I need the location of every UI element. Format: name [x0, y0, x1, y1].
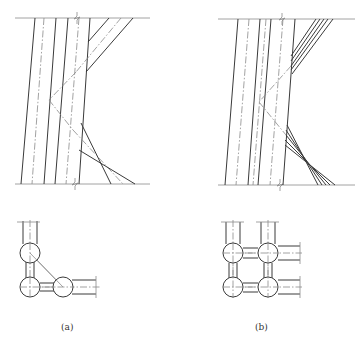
panel-a-plan [17, 220, 100, 298]
caption-a: (a) [61, 322, 73, 332]
panel-b-plan [221, 220, 302, 298]
panel-b-elevation [218, 13, 355, 191]
panel-a-elevation [15, 12, 150, 190]
caption-b: (b) [255, 322, 268, 332]
diagram-canvas [0, 0, 359, 339]
